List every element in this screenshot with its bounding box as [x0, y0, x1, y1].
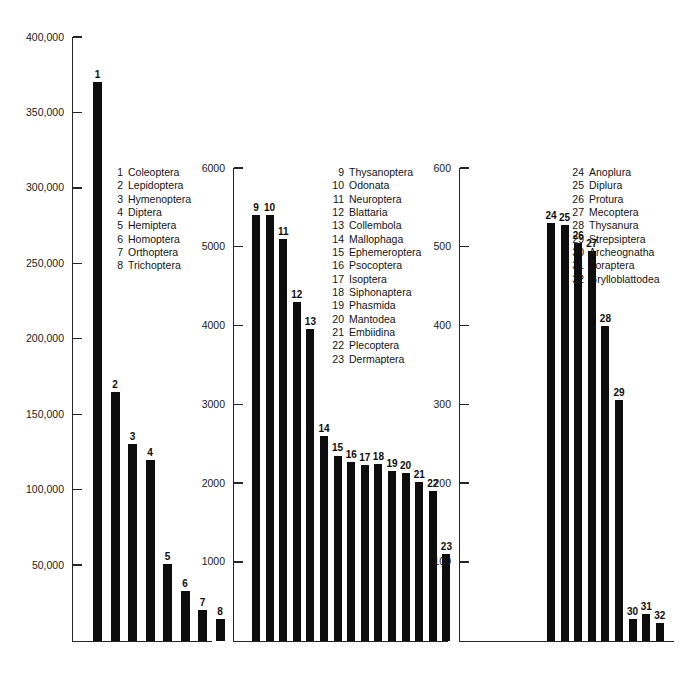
bar-25[interactable]: [561, 225, 569, 641]
panel-2-tick-label: 6000: [202, 163, 225, 174]
bar-21[interactable]: [415, 482, 423, 640]
legend-number: 27: [569, 206, 584, 219]
legend-name: Mantodea: [349, 313, 396, 325]
bar-16[interactable]: [347, 462, 355, 641]
bar-label-29: 29: [609, 388, 629, 398]
bar-3[interactable]: [128, 444, 137, 640]
chart-panel-1: 50,000100,000150,000200,000250,000300,00…: [0, 0, 228, 673]
legend-number: 16: [329, 259, 344, 272]
legend-item-13: 13Collembola: [329, 219, 421, 232]
bar-label-8: 8: [210, 607, 230, 617]
legend-number: 30: [569, 246, 584, 259]
panel-3-tick-300: [460, 404, 469, 405]
panel-1-y-axis: [72, 37, 73, 642]
bar-4[interactable]: [146, 460, 155, 641]
bar-17[interactable]: [361, 465, 369, 641]
bar-12[interactable]: [293, 302, 301, 641]
legend-name: Trichoptera: [128, 259, 181, 271]
panel-3-tick-label: 100: [433, 556, 451, 567]
bar-6[interactable]: [181, 591, 190, 641]
legend-item-10: 10Odonata: [329, 179, 421, 192]
panel-1-tick-250000: [73, 263, 82, 264]
legend-item-3: 3Hymenoptera: [108, 193, 191, 206]
legend-item-27: 27Mecoptera: [569, 206, 660, 219]
legend-number: 5: [108, 219, 123, 232]
bar-13[interactable]: [306, 329, 314, 640]
panel-3-x-axis: [459, 641, 674, 642]
bar-label-14: 14: [314, 424, 334, 434]
bar-15[interactable]: [334, 456, 342, 641]
bar-30[interactable]: [629, 619, 637, 641]
legend-number: 21: [329, 326, 344, 339]
legend-name: Anoplura: [589, 166, 631, 178]
legend-item-20: 20Mantodea: [329, 313, 421, 326]
bar-label-13: 13: [300, 317, 320, 327]
bar-label-11: 11: [273, 227, 293, 237]
bar-1[interactable]: [93, 82, 102, 640]
bar-18[interactable]: [374, 464, 382, 640]
legend-name: Homoptera: [128, 233, 180, 245]
bar-29[interactable]: [615, 400, 623, 640]
legend-number: 12: [329, 206, 344, 219]
legend-item-21: 21Embiidina: [329, 326, 421, 339]
legend-number: 32: [569, 273, 584, 286]
legend-number: 6: [108, 233, 123, 246]
legend-name: Neuroptera: [349, 193, 402, 205]
bar-label-2: 2: [105, 380, 125, 390]
bar-5[interactable]: [163, 564, 172, 641]
legend-name: Mallophaga: [349, 233, 403, 245]
legend-item-30: 30Archeognatha: [569, 246, 660, 259]
legend-number: 10: [329, 179, 344, 192]
panel-1-tick-150000: [73, 414, 82, 415]
panel-1-tick-350000: [73, 112, 82, 113]
legend-number: 8: [108, 259, 123, 272]
legend-name: Ephemeroptera: [349, 246, 421, 258]
panel-3-legend: 24Anoplura25Diplura26Protura27Mecoptera2…: [569, 166, 660, 286]
legend-number: 28: [569, 219, 584, 232]
legend-item-2: 2Lepidoptera: [108, 179, 191, 192]
panel-2-tick-4000: [234, 325, 243, 326]
bar-28[interactable]: [601, 326, 609, 641]
panel-1-tick-400000: [73, 36, 82, 37]
panel-2-x-axis: [233, 641, 448, 642]
legend-item-1: 1Coleoptera: [108, 166, 191, 179]
bar-14[interactable]: [320, 436, 328, 641]
legend-name: Coleoptera: [128, 166, 179, 178]
legend-name: Lepidoptera: [128, 179, 183, 191]
bar-19[interactable]: [388, 471, 396, 640]
legend-name: Thysanoptera: [349, 166, 413, 178]
bar-20[interactable]: [402, 473, 410, 641]
legend-name: Mecoptera: [589, 206, 639, 218]
bar-26[interactable]: [574, 243, 582, 641]
legend-number: 14: [329, 233, 344, 246]
panel-1-tick-300000: [73, 187, 82, 188]
panel-2-tick-label: 5000: [202, 241, 225, 252]
bar-9[interactable]: [252, 215, 260, 640]
legend-number: 23: [329, 353, 344, 366]
bar-8[interactable]: [216, 619, 225, 640]
bar-7[interactable]: [198, 610, 207, 640]
panel-1-tick-label: 400,000: [26, 32, 64, 43]
panel-1-tick-label: 200,000: [26, 333, 64, 344]
legend-name: Hemiptera: [128, 219, 176, 231]
legend-item-4: 4Diptera: [108, 206, 191, 219]
legend-item-29: 29Strepsiptera: [569, 233, 660, 246]
legend-item-6: 6Homoptera: [108, 233, 191, 246]
panel-3-tick-label: 200: [433, 478, 451, 489]
legend-item-32: 32Grylloblattodea: [569, 273, 660, 286]
panel-3-tick-label: 500: [433, 241, 451, 252]
legend-number: 17: [329, 273, 344, 286]
legend-number: 26: [569, 193, 584, 206]
bar-10[interactable]: [266, 215, 274, 640]
legend-name: Psocoptera: [349, 259, 402, 271]
panel-1-tick-200000: [73, 338, 82, 339]
bar-27[interactable]: [588, 251, 596, 641]
legend-number: 4: [108, 206, 123, 219]
bar-24[interactable]: [547, 223, 555, 640]
legend-name: Grylloblattodea: [589, 273, 660, 285]
panel-2-tick-6000: [234, 167, 243, 168]
legend-number: 31: [569, 259, 584, 272]
legend-item-17: 17Isoptera: [329, 273, 421, 286]
bar-32[interactable]: [656, 623, 664, 640]
bar-2[interactable]: [111, 392, 120, 641]
